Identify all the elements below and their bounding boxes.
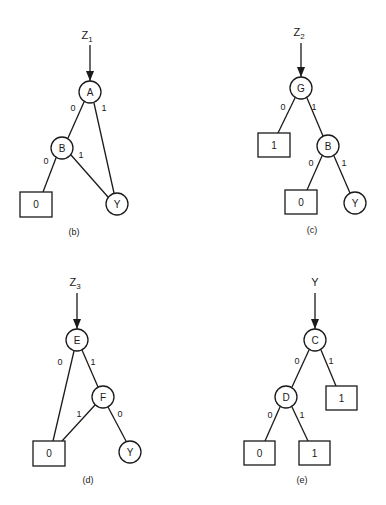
diagram-b: Z1 0 1 0 1 A B Y 0 (b) [20, 29, 128, 237]
node-label: C [311, 335, 318, 346]
edge-label: 0 [43, 156, 48, 166]
terminal-label: 0 [257, 448, 263, 459]
terminal-label: 1 [271, 140, 277, 151]
diagram-c: Z2 0 1 0 1 G B Y 1 0 (c) [258, 26, 366, 235]
diagram-d: Z3 0 1 1 0 E F Y 0 (d) [33, 276, 141, 485]
edge-label: 0 [267, 410, 272, 420]
terminal-label: 0 [46, 448, 52, 459]
edge-label: 0 [294, 356, 299, 366]
edge-label: 0 [70, 103, 75, 113]
edge-label: 1 [76, 409, 81, 419]
arrowhead-icon [86, 71, 94, 81]
edge-E-t0 [53, 351, 74, 441]
diagram-e: Y 0 1 0 1 C D 1 0 1 (e) [244, 276, 357, 485]
node-label: B [59, 143, 66, 154]
arrowhead-icon [311, 319, 319, 329]
edge-label: 1 [311, 102, 316, 112]
edge-label: 1 [90, 357, 95, 367]
edge-B-Y [71, 155, 108, 197]
node-label: Y [352, 198, 359, 209]
root-label-y: Y [311, 276, 319, 288]
node-label: B [325, 141, 332, 152]
edge-label: 1 [78, 150, 83, 160]
edge-A-Y [94, 103, 114, 193]
edge-label: 0 [280, 102, 285, 112]
node-label: A [87, 87, 94, 98]
caption-d: (d) [83, 475, 94, 485]
caption-b: (b) [69, 227, 80, 237]
arrowhead-icon [297, 67, 305, 77]
node-label: E [74, 335, 81, 346]
edge-label: 1 [341, 158, 346, 168]
terminal-label: 1 [312, 448, 318, 459]
caption-c: (c) [307, 225, 318, 235]
node-label: F [100, 392, 106, 403]
terminal-label: 1 [339, 393, 345, 404]
arrowhead-icon [73, 319, 81, 329]
terminal-label: 0 [298, 197, 304, 208]
edge-label: 0 [308, 158, 313, 168]
node-label: Y [127, 447, 134, 458]
edge-E-F [82, 350, 98, 387]
edge-label: 1 [328, 356, 333, 366]
terminal-label: 0 [33, 199, 39, 210]
edge-label: 1 [101, 103, 106, 113]
edge-label: 1 [299, 410, 304, 420]
node-label: G [297, 83, 305, 94]
bdd-figure: Z1 0 1 0 1 A B Y 0 (b) Z2 0 1 0 1 G [0, 0, 386, 505]
root-label-z1: Z1 [81, 29, 93, 44]
caption-e: (e) [297, 475, 308, 485]
root-label-z2: Z2 [293, 26, 305, 41]
edge-label: 0 [57, 357, 62, 367]
node-label: Y [114, 199, 121, 210]
edge-label: 0 [117, 409, 122, 419]
root-label-z3: Z3 [69, 276, 81, 291]
node-label: D [282, 392, 289, 403]
